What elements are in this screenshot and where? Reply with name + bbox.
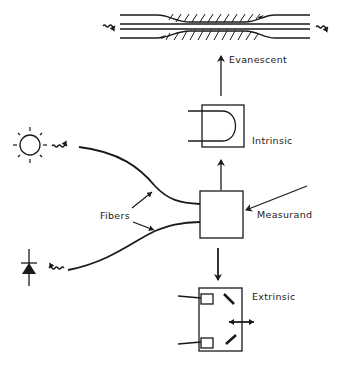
fiber-input: [79, 147, 200, 204]
sensor-box: [200, 191, 243, 238]
measurand-label: Measurand: [257, 209, 312, 220]
fiber-output: [68, 222, 200, 270]
evanescent-label: Evanescent: [229, 54, 287, 65]
sun-light-source-icon: [13, 127, 47, 163]
intrinsic-sensor: [188, 105, 244, 147]
intrinsic-label: Intrinsic: [252, 135, 293, 146]
measurand-arrow: [246, 186, 307, 210]
detector-light-wave-icon: [49, 267, 64, 269]
output-light-wave-icon: [316, 26, 328, 28]
extrinsic-sensor: [178, 288, 254, 351]
fibers-label: Fibers: [100, 210, 130, 221]
extrinsic-label: Extrinsic: [252, 291, 295, 302]
photodiode-detector-icon: [21, 249, 37, 286]
fiber-sensor-diagram: Evanescent Intrinsic Fibers Measurand: [0, 0, 347, 371]
evanescent-fiber-taper: [103, 14, 328, 40]
input-light-wave-icon: [103, 25, 115, 27]
source-light-wave-icon: [52, 145, 67, 147]
